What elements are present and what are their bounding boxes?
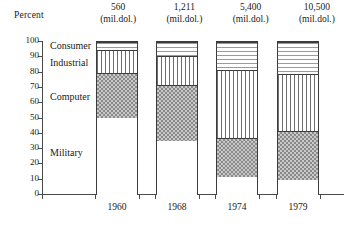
x-axis-tick xyxy=(199,194,200,199)
column-total-value: 10,500 xyxy=(284,2,350,14)
column-total-value: 1,211 xyxy=(151,2,217,14)
category-label-industrial: Industrial xyxy=(50,57,88,68)
column-total-unit: (mil.dol.) xyxy=(284,14,350,26)
x-axis-tick xyxy=(320,194,321,199)
x-axis-tick xyxy=(95,194,96,199)
x-axis-tick xyxy=(259,194,260,199)
column-headers: 560 (mil.dol.) 1,211 (mil.dol.) 5,400 (m… xyxy=(85,2,350,32)
stacked-bar-chart: Percent 560 (mil.dol.) 1,211 (mil.dol.) … xyxy=(0,0,350,226)
x-axis-tick xyxy=(215,194,216,199)
y-axis-tick-label: 90 xyxy=(15,50,39,60)
column-total-unit: (mil.dol.) xyxy=(85,14,151,26)
column-header-4: 10,500 (mil.dol.) xyxy=(284,2,350,32)
column-total-value: 5,400 xyxy=(218,2,284,14)
column-header-2: 1,211 (mil.dol.) xyxy=(151,2,217,32)
segment-industrial xyxy=(217,70,257,139)
x-axis-tick xyxy=(139,194,140,199)
x-axis-tick xyxy=(42,194,43,199)
segment-consumer xyxy=(217,42,257,70)
segment-military xyxy=(157,141,197,195)
column-header-1: 560 (mil.dol.) xyxy=(85,2,151,32)
x-axis-tick-label: 1974 xyxy=(214,202,260,212)
segment-industrial xyxy=(157,56,197,85)
segment-industrial xyxy=(97,50,137,73)
y-axis-tick-label: 60 xyxy=(15,96,39,106)
plot-area: 1009080706050403020100 1960196819741979 … xyxy=(0,34,350,226)
segment-consumer xyxy=(278,42,318,74)
y-axis-tick-label: 70 xyxy=(15,81,39,91)
bar-1968 xyxy=(156,41,198,194)
x-axis-tick-label: 1979 xyxy=(275,202,321,212)
x-axis-tick-label: 1960 xyxy=(94,202,140,212)
segment-industrial xyxy=(278,74,318,131)
segment-consumer xyxy=(157,42,197,56)
category-label-consumer: Consumer xyxy=(50,40,91,51)
column-header-3: 5,400 (mil.dol.) xyxy=(218,2,284,32)
bar-1960 xyxy=(96,41,138,194)
segment-computer xyxy=(278,131,318,180)
segment-computer xyxy=(97,73,137,119)
segment-computer xyxy=(217,138,257,176)
column-total-unit: (mil.dol.) xyxy=(218,14,284,26)
x-axis-tick xyxy=(276,194,277,199)
category-label-military: Military xyxy=(50,147,83,158)
bar-1979 xyxy=(277,41,319,194)
y-axis-tick-label: 100 xyxy=(15,35,39,45)
x-axis-tick-label: 1968 xyxy=(154,202,200,212)
segment-consumer xyxy=(97,42,137,50)
y-axis-tick-label: 20 xyxy=(15,157,39,167)
y-axis-title: Percent xyxy=(14,10,44,20)
segment-military xyxy=(217,177,257,195)
column-total-unit: (mil.dol.) xyxy=(151,14,217,26)
segment-military xyxy=(278,180,318,195)
y-axis-tick-label: 50 xyxy=(15,112,39,122)
segment-military xyxy=(97,119,137,196)
category-label-computer: Computer xyxy=(50,91,90,102)
bar-1974 xyxy=(216,41,258,194)
y-axis-tick-label: 30 xyxy=(15,142,39,152)
segment-computer xyxy=(157,85,197,142)
x-axis-tick xyxy=(155,194,156,199)
column-total-value: 560 xyxy=(85,2,151,14)
y-axis-tick-label: 10 xyxy=(15,173,39,183)
y-axis-tick-label: 40 xyxy=(15,127,39,137)
y-axis-tick-label: 0 xyxy=(15,188,39,198)
y-axis-tick-label: 80 xyxy=(15,66,39,76)
